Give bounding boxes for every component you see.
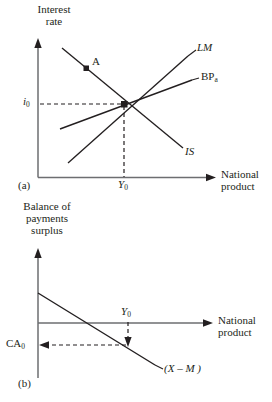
point-a-label: A: [92, 56, 100, 68]
panel-a-x-axis-arrowhead: [206, 174, 216, 181]
curve-is: [62, 48, 183, 148]
equilibrium-point-marker: [121, 101, 128, 108]
panel-b-curves: [38, 293, 155, 365]
panel-b-tag: (b): [18, 378, 31, 390]
panel-a-y-axis-title: Interest rate: [22, 4, 86, 28]
panel-a-y-tick-label-i0: i0: [23, 96, 30, 109]
curve-label-lm: LM: [197, 42, 212, 54]
panel-b-ca0-guide-arrowhead: [39, 341, 49, 348]
point-a-marker: [84, 66, 90, 72]
panel-b-x-axis-title-line2: product: [218, 327, 256, 339]
curve-label-is: IS: [185, 146, 194, 158]
panel-a-tag: (a): [18, 180, 30, 192]
curve-lm: [68, 56, 188, 163]
panel-b-y-tick-label-ca0: CA0: [6, 338, 25, 351]
figure-container: Interest rate i0 Y0 LM BPa IS A National…: [0, 0, 272, 402]
curve-label-x-minus-m: (X – M ): [164, 363, 201, 375]
curve-bpa-leader: [192, 78, 199, 80]
panel-b-y-axis-title-line3: surplus: [8, 225, 86, 237]
curve-x-minus-m-leader: [155, 365, 163, 369]
panel-b-y-axis-title: Balance of payments surplus: [8, 201, 86, 237]
panel-b-x-tick-label-y0: Y0: [121, 306, 131, 319]
panel-a-y-axis-arrowhead: [34, 38, 41, 48]
curve-x-minus-m: [38, 293, 155, 365]
panel-a-label-leaders: [188, 50, 199, 80]
panel-b-guides: [39, 322, 132, 349]
panel-b-x-axis-arrowhead: [203, 319, 213, 326]
panel-a-x-tick-label-y0: Y0: [118, 179, 128, 192]
panel-a-y-axis-title-line2: rate: [22, 16, 86, 28]
panel-b-label-leaders: [155, 365, 163, 369]
panel-a-guides: [40, 104, 124, 177]
panel-a-axes: [34, 38, 216, 181]
panel-a-x-axis-title-line2: product: [221, 181, 259, 193]
panel-b-y-axis-arrowhead: [34, 248, 41, 258]
curve-label-bpa: BPa: [201, 71, 218, 84]
panel-b-x-axis-title: National product: [218, 315, 256, 339]
curve-lm-leader: [188, 50, 196, 56]
panel-b-y-axis-title-line2: payments: [8, 213, 86, 225]
panel-a-x-axis-title: National product: [221, 169, 259, 193]
